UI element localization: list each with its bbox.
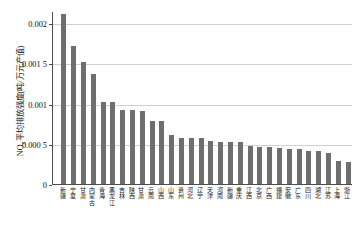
x-axis-line	[52, 184, 352, 185]
bar	[169, 135, 174, 184]
x-axis-tick-label: 甘肃	[80, 187, 87, 200]
nox-emission-intensity-bar-chart: NOx平均排放强度(吨/万元产值) 0.0020.001 50.0010.000…	[0, 0, 359, 225]
y-axis-tick	[49, 185, 52, 186]
y-axis-tick	[49, 105, 52, 106]
bar	[199, 138, 204, 184]
bar	[130, 110, 135, 184]
x-axis-tick-label: 安徽	[285, 187, 292, 200]
bar	[316, 151, 321, 184]
bar	[159, 121, 164, 184]
bar	[189, 138, 194, 184]
x-axis-tick-label: 宁夏	[70, 187, 77, 200]
x-axis-tick-label: 黑龙江	[109, 187, 116, 206]
bar	[306, 151, 311, 184]
bar	[179, 138, 184, 184]
bar	[248, 146, 253, 184]
bar	[81, 62, 86, 184]
x-axis-tick-label: 湖北	[315, 187, 322, 200]
bar	[326, 153, 331, 184]
bar	[101, 102, 106, 184]
y-axis-tick	[49, 24, 52, 25]
x-axis-tick-label: 山西	[158, 187, 165, 200]
x-axis-tick-label: 陕西	[129, 187, 136, 200]
x-axis-tick-label: 河北	[187, 187, 194, 200]
bar	[238, 142, 243, 184]
bar	[257, 147, 262, 184]
x-axis-tick-label: 贵州	[178, 187, 185, 200]
x-axis-tick-label: 甘肃	[138, 187, 145, 200]
bar	[61, 14, 66, 184]
bar	[150, 121, 155, 184]
bar	[208, 141, 213, 184]
bar	[346, 162, 351, 184]
x-axis-tick-label: 吉林	[119, 187, 126, 200]
y-axis-tick-label: 0.001 5	[22, 60, 47, 69]
y-axis-tick-label: 0.002	[28, 20, 47, 29]
x-axis-tick-label: 北京	[256, 187, 263, 200]
bar	[287, 149, 292, 184]
plot-area	[52, 12, 352, 185]
x-axis-tick-label: 山东	[168, 187, 175, 200]
x-axis-tick-label: 重庆	[236, 187, 243, 200]
y-axis-tick-label: 0	[43, 181, 47, 190]
bar	[336, 161, 341, 184]
x-axis-tick-label: 内蒙古	[89, 187, 96, 206]
x-axis-tick-label: 新疆	[60, 187, 67, 200]
y-axis-tick-label: 0.001	[28, 100, 47, 109]
x-axis-tick-label: 广东	[295, 187, 302, 200]
x-axis-tick-labels: 新疆宁夏甘肃内蒙古青海黑龙江吉林陕西甘肃云南山西山东贵州河北辽宁天津河南新疆重庆…	[52, 187, 352, 225]
x-axis-tick-label: 天津	[207, 187, 214, 200]
x-axis-tick-label: 河南	[217, 187, 224, 200]
x-axis-tick-label: 新疆	[227, 187, 234, 200]
x-axis-tick-label: 广西	[266, 187, 273, 200]
bar	[71, 46, 76, 184]
bar	[91, 74, 96, 184]
x-axis-tick-label: 上海	[334, 187, 341, 200]
y-axis-tick	[49, 145, 52, 146]
y-axis-tick	[49, 64, 52, 65]
bar	[218, 142, 223, 184]
x-axis-tick-label: 辽宁	[197, 187, 204, 200]
x-axis-tick-label: 浙江	[344, 187, 351, 200]
x-axis-tick-label: 四川	[305, 187, 312, 200]
y-axis-tick-labels: 0.0020.001 50.0010.000 50	[0, 0, 50, 225]
x-axis-tick-label: 福建	[276, 187, 283, 200]
x-axis-tick-label: 青海	[99, 187, 106, 200]
bar	[267, 147, 272, 184]
bar-series	[53, 12, 352, 184]
x-axis-tick-label: 江西	[246, 187, 253, 200]
bar	[277, 148, 282, 184]
bar	[228, 142, 233, 184]
bar	[297, 149, 302, 184]
bar	[140, 111, 145, 184]
bar	[110, 102, 115, 184]
y-axis-tick-label: 0.000 5	[22, 140, 47, 149]
x-axis-tick-label: 云南	[148, 187, 155, 200]
bar	[120, 110, 125, 184]
x-axis-tick-label: 江苏	[325, 187, 332, 200]
